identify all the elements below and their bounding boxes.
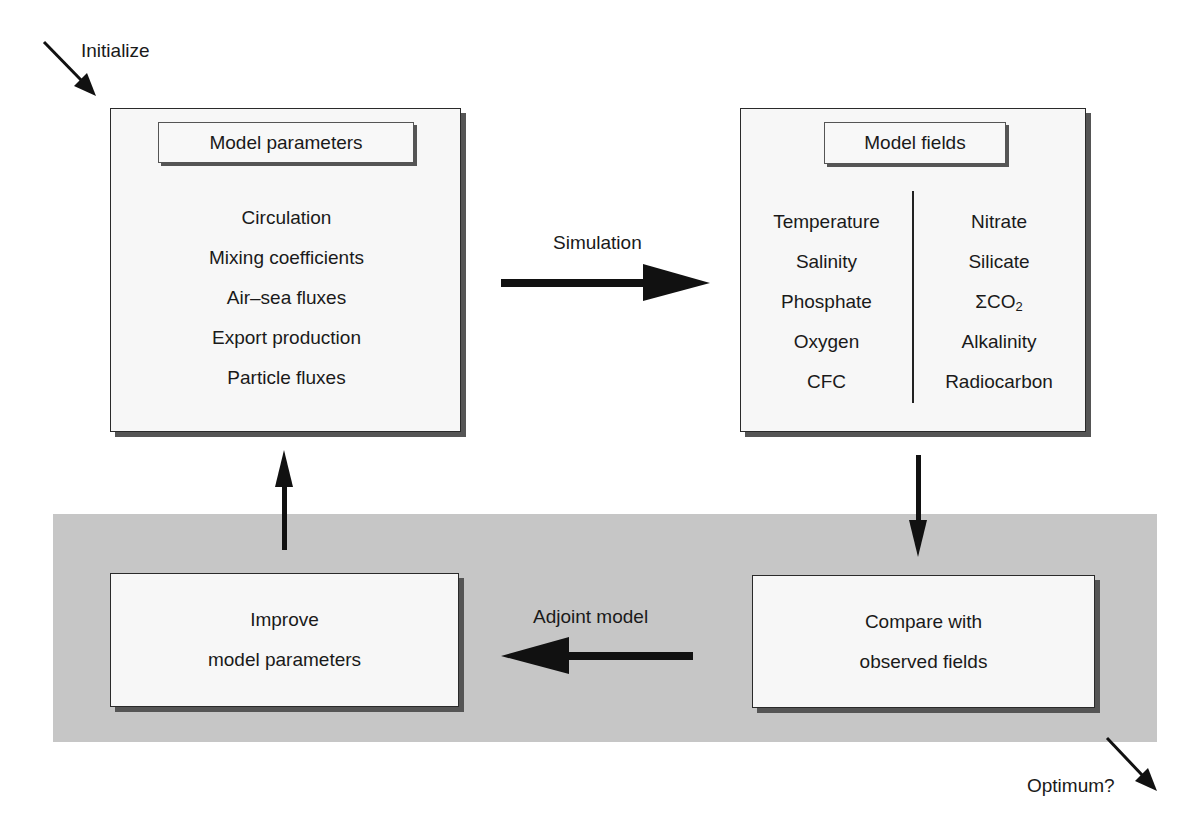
- down-arrow-icon: [909, 455, 927, 557]
- initialize-arrow-icon: [44, 42, 96, 96]
- simulation-arrow-icon: [501, 264, 710, 301]
- up-arrow-icon: [275, 450, 293, 550]
- optimum-arrow-icon: [1107, 738, 1157, 791]
- arrows-layer: [0, 0, 1190, 825]
- adjoint-arrow-icon: [501, 637, 693, 674]
